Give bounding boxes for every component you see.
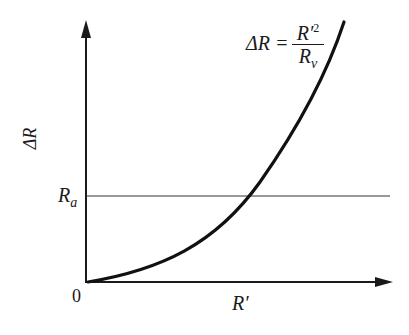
equation-denominator: Rv [292, 46, 324, 74]
equation-lhs: ΔR = [246, 32, 288, 55]
x-axis-arrow-icon [375, 277, 393, 287]
y-axis-arrow-icon [81, 20, 91, 38]
y-axis-label: ΔR [20, 128, 41, 150]
ra-label: Ra [58, 184, 77, 211]
origin-label: 0 [72, 286, 81, 307]
x-axis-label: R′ [232, 292, 249, 315]
equation-numerator: R′2 [292, 18, 324, 43]
diagram-canvas [0, 0, 409, 335]
equation-fraction: R′2 Rv [292, 18, 324, 74]
